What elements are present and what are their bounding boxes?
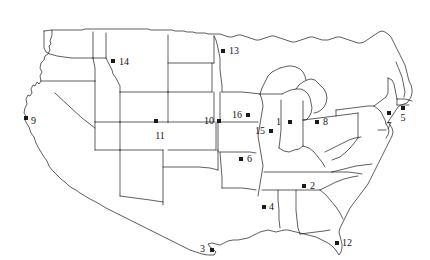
map-marker-7 <box>387 111 391 115</box>
map-marker-5 <box>401 106 405 110</box>
map-marker-label-4: 4 <box>269 202 274 212</box>
map-marker-label-7: 7 <box>387 121 392 131</box>
map-marker-4 <box>262 205 266 209</box>
map-marker-16 <box>246 113 250 117</box>
map-marker-11 <box>154 119 158 123</box>
map-marker-3 <box>210 248 214 252</box>
map-marker-label-6: 6 <box>247 154 252 164</box>
map-marker-8 <box>315 120 319 124</box>
map-marker-1 <box>288 120 292 124</box>
united-states-map-figure: 12345678910111213141516 <box>0 0 430 260</box>
map-marker-label-16: 16 <box>232 110 242 120</box>
map-marker-label-3: 3 <box>200 244 205 254</box>
map-marker-label-5: 5 <box>401 113 406 123</box>
map-marker-label-13: 13 <box>229 46 239 56</box>
map-marker-6 <box>239 157 243 161</box>
map-marker-label-10: 10 <box>204 116 214 126</box>
map-marker-10 <box>217 119 221 123</box>
map-marker-2 <box>302 184 306 188</box>
map-marker-label-14: 14 <box>119 57 129 67</box>
map-marker-label-2: 2 <box>310 181 315 191</box>
us-state-outline-map <box>0 0 430 260</box>
map-marker-label-12: 12 <box>342 238 352 248</box>
map-marker-13 <box>221 49 225 53</box>
map-marker-label-9: 9 <box>31 116 36 126</box>
map-marker-9 <box>24 116 28 120</box>
map-marker-12 <box>335 241 339 245</box>
map-marker-label-11: 11 <box>155 131 165 141</box>
map-marker-label-1: 1 <box>276 117 281 127</box>
map-marker-label-8: 8 <box>323 117 328 127</box>
map-marker-14 <box>111 59 115 63</box>
map-marker-label-15: 15 <box>255 126 265 136</box>
map-marker-15 <box>269 129 273 133</box>
state-boundary-lines <box>41 31 412 234</box>
